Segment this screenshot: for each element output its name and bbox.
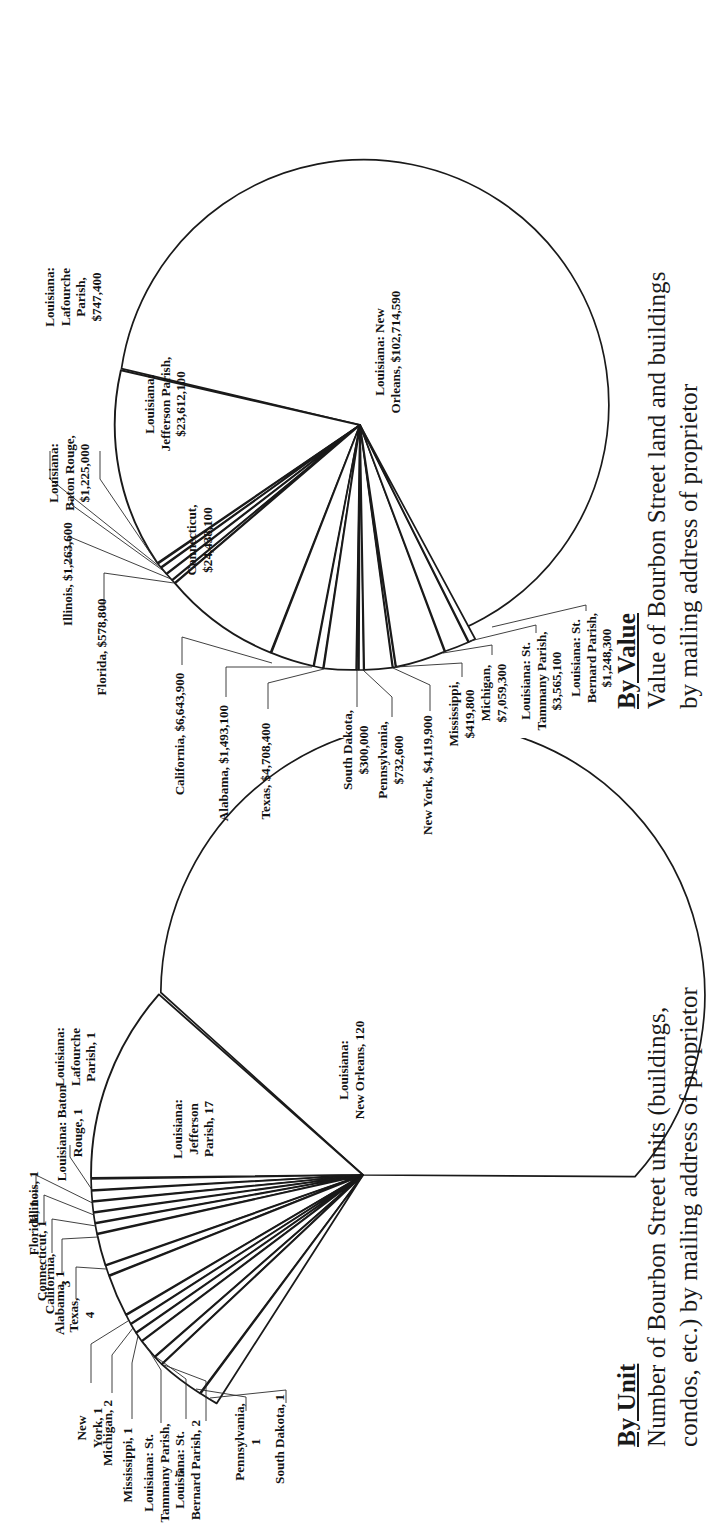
- label-connecticut: Connecticut, $24,438,100: [184, 493, 215, 587]
- label-south-dakota: South Dakota, 1: [272, 1393, 288, 1485]
- chart-panel-by-value: South Dakota, $300,000 Pennsylvania, $73…: [0, 0, 726, 737]
- label-new-york: New York, $4,119,900: [420, 711, 436, 839]
- label-california: California, $6,643,900: [172, 663, 188, 805]
- label-st-tammany-parish: Louisiana: St. Tammany Parish, $3,565,10…: [518, 631, 565, 731]
- label-illinois: Illinois, $1,263,600: [60, 511, 76, 637]
- label-lafourche-parish: Louisiana: Lafourche Parish, $747,400: [42, 255, 105, 339]
- label-illinois: Illinois, 1: [26, 1169, 42, 1225]
- title-block-by-unit: By Unit Number of Bourbon Street units (…: [612, 757, 705, 1447]
- label-texas: Texas, $4,708,400: [258, 707, 274, 835]
- label-new-orleans-center: Louisiana: New Orleans, 120: [336, 995, 367, 1145]
- chart-title-by-unit-line1: Number of Bourbon Street units (building…: [642, 757, 673, 1447]
- chart-kicker-by-unit: By Unit: [612, 757, 642, 1447]
- label-lafourche-parish: Louisiana: Lafourche Parish, 1: [52, 1015, 99, 1099]
- chart-kicker-by-value: By Value: [612, 19, 642, 709]
- label-mississippi: Mississippi, 1: [120, 1417, 136, 1513]
- label-south-dakota: South Dakota, $300,000: [340, 707, 371, 793]
- label-jefferson-parish: Louisiana: Jefferson Parish, $23,612,100: [142, 343, 189, 465]
- label-mississippi: Mississippi, $419,800: [446, 675, 477, 753]
- label-alabama: Alabama, $1,493,100: [216, 697, 232, 829]
- label-michigan: Michigan, $7,059,300: [478, 653, 509, 733]
- label-new-orleans-center: Louisiana: New Orleans, $102,714,590: [372, 267, 403, 437]
- title-block-by-value: By Value Value of Bourbon Street land an…: [612, 19, 705, 709]
- label-pennsylvania: Pennsylvania, $732,600: [375, 717, 406, 803]
- chart-title-by-value-line1: Value of Bourbon Street land and buildin…: [642, 19, 673, 709]
- chart-title-by-value-line2: by mailing address of proprietor: [674, 19, 705, 709]
- label-michigan: Michigan, 2: [100, 1389, 116, 1477]
- label-florida: Florida, $578,800: [94, 595, 110, 699]
- chart-panel-by-unit: New York, 1 Michigan, 2 Mississippi, 1 L…: [0, 738, 726, 1475]
- label-pennsylvania: Pennsylvania, 1: [232, 1403, 263, 1481]
- label-st-bernard-parish: Louisiana: St. Bernard Parish, $1,248,30…: [568, 609, 615, 707]
- label-jefferson-parish: Louisiana: Jefferson Parish, 17: [170, 1083, 217, 1175]
- label-baton-rouge: Louisiana: Baton Rouge, $1,225,000: [46, 425, 93, 521]
- label-st-bernard-parish: Louisiana: St. Bernard Parish, 2: [172, 1415, 203, 1525]
- chart-title-by-unit-line2: condos, etc.) by mailing address of prop…: [674, 757, 705, 1447]
